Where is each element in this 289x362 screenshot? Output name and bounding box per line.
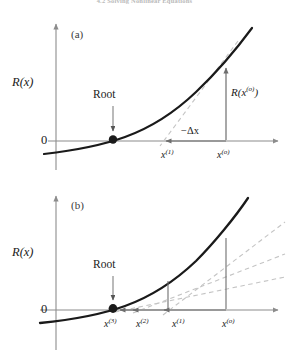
panel-a: (a) R(x) 0 Root −Δx R(x(o)) x(1) x(o)	[0, 10, 289, 180]
panel-b-y-axis-label: R(x)	[12, 246, 34, 259]
panel-a-rfunc-label: R(x(o))	[231, 87, 258, 98]
tick-sup: (o)	[226, 317, 234, 325]
tick-sup: (1)	[176, 317, 184, 325]
panel-a-tick-x0: x(o)	[217, 150, 230, 160]
panel-b-tick-x1: x(1)	[172, 319, 185, 329]
tangent-dashed-b-1	[163, 222, 285, 315]
panel-b-tick-x2: x(2)	[136, 319, 149, 329]
panel-a-tag: (a)	[71, 29, 83, 40]
tick-sup: (2)	[140, 317, 148, 325]
panel-b-graphic	[0, 182, 289, 362]
tick-sup: (1)	[165, 148, 173, 156]
rfunc-close: )	[254, 86, 258, 98]
panel-a-y-axis-label: R(x)	[12, 76, 34, 89]
panel-b-tick-x3: x(3)	[104, 319, 117, 329]
curve-a	[44, 28, 252, 154]
tick-sup: (3)	[108, 317, 116, 325]
tick-sup: (o)	[221, 148, 229, 156]
panel-b-tick-x0: x(o)	[222, 319, 235, 329]
panel-a-root-label: Root	[93, 89, 115, 101]
panel-b-zero-label: 0	[41, 303, 47, 316]
panel-a-zero-label: 0	[41, 134, 47, 147]
tangent-dashed-b-3	[115, 277, 285, 312]
panel-b-tag: (b)	[71, 200, 84, 211]
panel-b-root-label: Root	[93, 259, 115, 271]
panel-b: (b) R(x) 0 Root x(3) x(2) x(1) x(o)	[0, 182, 289, 362]
running-head: 4.2 Solving Nonlinear Equations	[0, 0, 289, 4]
curve-b	[40, 198, 248, 323]
panel-a-delta-label: −Δx	[181, 126, 199, 137]
figure-page: 4.2 Solving Nonlinear Equations	[0, 0, 289, 362]
rfunc-base: R(x	[231, 86, 246, 98]
root-dot-a	[109, 135, 117, 143]
root-dot-b	[109, 304, 118, 313]
panel-a-tick-x1: x(1)	[161, 150, 174, 160]
